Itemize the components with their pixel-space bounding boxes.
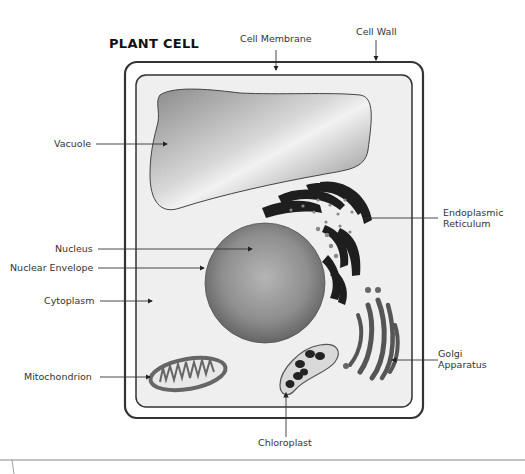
nucleus	[205, 223, 325, 343]
plant-cell-diagram: PLANT CELL Cell Membrane Cell Wall Vacuo…	[0, 0, 525, 474]
label-golgi-line1: Golgi	[438, 348, 487, 359]
label-er-line2: Reticulum	[443, 218, 503, 229]
label-cytoplasm: Cytoplasm	[44, 295, 95, 306]
label-endoplasmic-reticulum: Endoplasmic Reticulum	[443, 207, 503, 229]
label-vacuole: Vacuole	[54, 138, 91, 149]
label-golgi-line2: Apparatus	[438, 359, 487, 370]
label-nucleus: Nucleus	[55, 243, 93, 254]
label-cell-membrane: Cell Membrane	[240, 33, 312, 44]
label-mitochondrion: Mitochondrion	[24, 371, 92, 382]
label-chloroplast: Chloroplast	[258, 437, 312, 448]
label-nuclear-envelope: Nuclear Envelope	[10, 262, 93, 273]
label-cell-wall: Cell Wall	[356, 26, 397, 37]
cell-illustration	[0, 0, 525, 474]
diagram-title: PLANT CELL	[109, 36, 199, 51]
label-golgi-apparatus: Golgi Apparatus	[438, 348, 487, 370]
label-er-line1: Endoplasmic	[443, 207, 503, 218]
